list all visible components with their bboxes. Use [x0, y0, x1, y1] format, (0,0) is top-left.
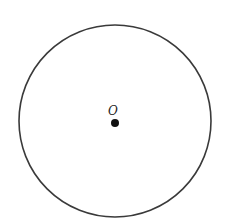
center-point: [111, 119, 119, 127]
circle-diagram: O: [0, 0, 228, 224]
center-label: O: [108, 104, 118, 118]
